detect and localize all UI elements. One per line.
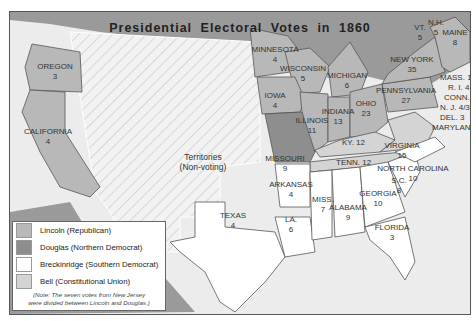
swatch-lincoln bbox=[16, 223, 32, 238]
label-mass: MASS. 13 bbox=[440, 73, 471, 83]
swatch-breckinridge bbox=[16, 257, 32, 272]
label-arkansas: ARKANSAS4 bbox=[269, 180, 313, 200]
swatch-douglas bbox=[16, 240, 32, 255]
label-maine: MAINE8 bbox=[442, 28, 467, 48]
label-ohio: OHIO23 bbox=[356, 99, 376, 119]
label-conn: CONN. 6 bbox=[444, 93, 471, 103]
swatch-bell bbox=[16, 274, 32, 289]
label-virginia: VIRGINIA15 bbox=[384, 141, 419, 161]
map-title: Presidential Electoral Votes in 1860 bbox=[10, 21, 470, 35]
legend-item-lincoln: Lincoln (Republican) bbox=[16, 222, 165, 239]
label-alabama: ALABAMA9 bbox=[329, 203, 367, 223]
territories-line1: Territories bbox=[180, 152, 227, 162]
label-louisiana: LA.6 bbox=[285, 215, 297, 235]
label-michigan: MICHIGAN6 bbox=[327, 71, 367, 91]
label-mississippi: MISS.7 bbox=[312, 195, 334, 215]
label-pennsylvania: PENNSYLVANIA27 bbox=[376, 86, 436, 106]
legend: Lincoln (Republican) Douglas (Northern D… bbox=[12, 221, 166, 311]
label-indiana: INDIANA13 bbox=[322, 107, 354, 127]
legend-note: (Note: The seven votes from New Jersey w… bbox=[13, 291, 165, 307]
label-wisconsin: WISCONSIN5 bbox=[280, 64, 326, 84]
label-north-carolina: NORTH CAROLINA10 bbox=[377, 164, 448, 184]
legend-item-bell: Bell (Constitutional Union) bbox=[16, 273, 165, 290]
territories-line2: (Non-voting) bbox=[180, 162, 227, 172]
label-california: CALIFORNIA4 bbox=[24, 127, 72, 147]
legend-item-douglas: Douglas (Northern Democrat) bbox=[16, 239, 165, 256]
label-del: DEL. 3 bbox=[440, 113, 464, 123]
label-oregon: OREGON3 bbox=[37, 62, 73, 82]
legend-item-breckinridge: Breckinridge (Southern Democrat) bbox=[16, 256, 165, 273]
label-texas: TEXAS4 bbox=[220, 211, 246, 231]
label-iowa: IOWA4 bbox=[264, 91, 285, 111]
label-new-york: NEW YORK35 bbox=[390, 55, 433, 75]
label-ky: KY. 12 bbox=[342, 138, 365, 148]
label-nj: N. J. 4/3 bbox=[440, 103, 470, 113]
label-tenn: TENN. 12 bbox=[336, 158, 371, 168]
label-minnesota: MINNESOTA4 bbox=[252, 45, 299, 65]
territories-label: Territories (Non-voting) bbox=[180, 152, 227, 172]
label-missouri: MISSOURI9 bbox=[265, 154, 305, 174]
map-frame: Presidential Electoral Votes in 1860 Ter… bbox=[9, 11, 471, 315]
label-ri: R. I. 4 bbox=[448, 83, 469, 93]
label-florida: FLORIDA3 bbox=[375, 223, 410, 243]
label-maryland: MARYLAND 8 bbox=[432, 123, 471, 133]
label-vt: VT.5 bbox=[414, 23, 426, 43]
